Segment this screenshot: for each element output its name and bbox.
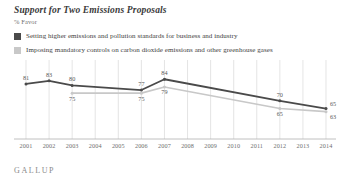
- series-line-mandatory-controls: [72, 87, 326, 112]
- line-chart-svg: 7575796563 81838077847065: [0, 58, 350, 140]
- x-axis-tick-labels: 2001200220032004200520062007200820092010…: [0, 142, 350, 156]
- x-axis-tick: 2003: [66, 142, 79, 149]
- data-point: [48, 79, 51, 82]
- plot-area: 7575796563 81838077847065: [0, 58, 350, 140]
- x-axis-tick: 2005: [112, 142, 125, 149]
- data-point-label: 77: [138, 80, 144, 87]
- data-point-label: 81: [23, 74, 29, 81]
- legend-label-mandatory-controls: Imposing mandatory controls on carbon di…: [26, 46, 273, 54]
- x-axis-tick: 2002: [43, 142, 56, 149]
- page-title: Support for Two Emissions Proposals: [14, 5, 167, 15]
- x-axis-tick: 2014: [320, 142, 333, 149]
- x-axis-tick: 2009: [204, 142, 217, 149]
- data-point: [25, 82, 28, 85]
- legend-swatch-light-icon: [14, 47, 21, 54]
- data-point-label: 84: [161, 69, 167, 76]
- data-point-label: 80: [69, 75, 75, 82]
- data-point: [325, 110, 328, 113]
- data-point: [325, 107, 328, 110]
- legend-item-standards: Setting higher emissions and pollution s…: [14, 29, 344, 43]
- x-axis-tick: 2013: [297, 142, 310, 149]
- x-axis-tick: 2006: [135, 142, 148, 149]
- x-axis-tick: 2007: [158, 142, 171, 149]
- legend-swatch-dark-icon: [14, 33, 21, 40]
- brand-logo: GALLUP: [14, 166, 55, 175]
- x-axis-tick: 2008: [181, 142, 194, 149]
- legend-item-mandatory-controls: Imposing mandatory controls on carbon di…: [14, 43, 344, 57]
- data-point-label: 79: [161, 88, 167, 95]
- data-point-label: 63: [330, 113, 336, 120]
- x-axis-tick: 2011: [250, 142, 263, 149]
- data-point: [278, 99, 281, 102]
- x-axis-tick: 2012: [273, 142, 286, 149]
- x-axis-tick: 2001: [20, 142, 33, 149]
- data-point: [71, 84, 74, 87]
- data-point-label: 83: [46, 71, 52, 78]
- data-point-label: 65: [330, 100, 336, 107]
- data-point-label: 70: [277, 91, 283, 98]
- data-point-label: 65: [277, 110, 283, 117]
- chart-subtitle: % Favor: [14, 18, 37, 25]
- data-point: [163, 78, 166, 81]
- x-axis-tick: 2004: [89, 142, 102, 149]
- data-point: [140, 89, 143, 92]
- data-point-label: 75: [69, 95, 75, 102]
- x-axis-tick: 2010: [227, 142, 240, 149]
- chart-legend: Setting higher emissions and pollution s…: [14, 29, 344, 57]
- legend-label-standards: Setting higher emissions and pollution s…: [26, 32, 238, 40]
- chart-card: Support for Two Emissions Proposals % Fa…: [0, 0, 350, 187]
- data-point-label: 75: [138, 95, 144, 102]
